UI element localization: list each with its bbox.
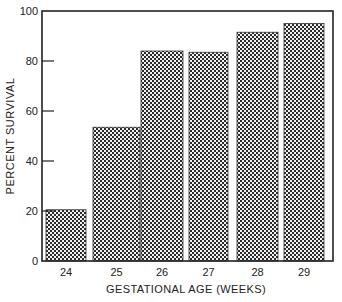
bar-25 — [93, 127, 140, 261]
bar-24 — [46, 210, 86, 261]
bar-26 — [141, 51, 183, 261]
y-tick-label: 60 — [26, 105, 38, 117]
bar-29 — [284, 24, 324, 262]
bar-chart — [0, 0, 342, 302]
bar-27 — [189, 52, 228, 261]
x-tick-label: 24 — [60, 266, 72, 278]
x-tick-label: 25 — [110, 266, 122, 278]
x-tick-label: 29 — [298, 266, 310, 278]
y-tick-label: 40 — [26, 155, 38, 167]
y-ticks — [42, 61, 54, 211]
x-tick-label: 27 — [202, 266, 214, 278]
y-axis-label: PERCENT SURVIVAL — [4, 78, 16, 195]
x-tick-label: 28 — [251, 266, 263, 278]
bars-group — [46, 24, 324, 262]
bar-28 — [237, 32, 278, 261]
y-tick-label: 80 — [26, 55, 38, 67]
y-tick-label: 20 — [26, 205, 38, 217]
y-tick-label: 0 — [32, 255, 38, 267]
x-tick-label: 26 — [156, 266, 168, 278]
x-axis-label: GESTATIONAL AGE (WEEKS) — [106, 283, 266, 295]
y-tick-label: 100 — [20, 5, 38, 17]
